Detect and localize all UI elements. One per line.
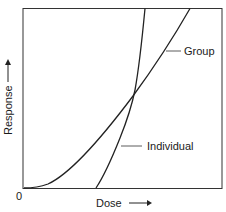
- x-axis-label: Dose: [96, 197, 122, 209]
- x-axis-arrow-icon: [129, 200, 152, 206]
- y-axis-label: Response: [2, 85, 14, 135]
- individual-label: Individual: [147, 140, 193, 152]
- group-label: Group: [184, 45, 215, 57]
- plot-frame: [23, 9, 222, 189]
- y-axis-arrow-icon: [5, 59, 11, 82]
- individual-curve: [96, 9, 145, 189]
- origin-label: 0: [16, 190, 22, 202]
- dose-response-chart: Group Individual 0 Dose Response: [0, 0, 226, 212]
- group-curve: [24, 9, 190, 189]
